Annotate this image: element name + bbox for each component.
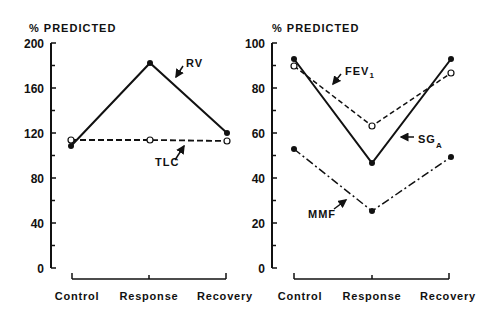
- fev1-arrow: [333, 74, 341, 84]
- figure: % PREDICTED 200 160 120 80 40 0: [0, 0, 482, 313]
- category-label: Recovery: [420, 290, 476, 302]
- rv-line: [71, 63, 227, 146]
- tick-label: 80: [31, 172, 45, 186]
- tick-label: 120: [24, 127, 44, 141]
- category-label: Response: [343, 290, 402, 302]
- right-x-axis: [294, 273, 449, 279]
- tick-label: 40: [252, 172, 266, 186]
- rv-markers: [68, 60, 230, 149]
- right-x-tick-labels: Control Response Recovery: [278, 290, 476, 302]
- tick-label: 0: [258, 262, 265, 276]
- rv-arrow: [176, 66, 183, 77]
- category-label: Response: [120, 290, 179, 302]
- tick-label: 60: [252, 127, 266, 141]
- mmf-arrow: [334, 200, 346, 209]
- tick-label: 0: [37, 262, 44, 276]
- tick-label: 80: [252, 82, 266, 96]
- category-label: Control: [278, 290, 323, 302]
- left-y-tick-labels: 200 160 120 80 40 0: [24, 37, 44, 276]
- tick-label: 20: [252, 217, 266, 231]
- category-label: Recovery: [197, 290, 253, 302]
- sga-label: SGA: [418, 133, 443, 150]
- category-label: Control: [55, 290, 100, 302]
- left-x-tick-labels: Control Response Recovery: [55, 290, 253, 302]
- tick-label: 40: [31, 217, 45, 231]
- left-x-axis: [72, 273, 226, 279]
- right-y-axis-label: % PREDICTED: [272, 22, 359, 34]
- mmf-line: [294, 149, 451, 211]
- mmf-markers: [291, 146, 454, 214]
- tick-label: 100: [245, 37, 265, 51]
- tick-label: 160: [24, 82, 44, 96]
- left-y-axis-label: % PREDICTED: [29, 22, 116, 34]
- right-chart: % PREDICTED 100 80 60 40 20 0: [245, 22, 476, 302]
- right-y-tick-labels: 100 80 60 40 20 0: [245, 37, 265, 276]
- fev1-label: FEV1: [345, 65, 375, 80]
- mmf-label: MMF: [308, 208, 336, 220]
- tick-label: 200: [24, 37, 44, 51]
- left-chart: % PREDICTED 200 160 120 80 40 0: [24, 22, 253, 302]
- tlc-arrow: [175, 146, 184, 160]
- rv-label: RV: [186, 57, 203, 69]
